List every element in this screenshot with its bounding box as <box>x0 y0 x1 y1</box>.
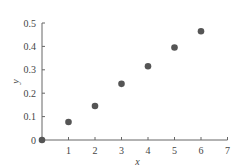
x-tick-label: 4 <box>146 145 151 156</box>
x-tick-label: 2 <box>93 145 98 156</box>
y-tick-label: 0.3 <box>24 64 37 75</box>
x-tick-label: 1 <box>66 145 71 156</box>
data-point <box>65 119 72 126</box>
y-tick-label: 0.4 <box>24 41 37 52</box>
y-tick-label: 0.2 <box>24 88 37 99</box>
y-tick-label: 0.1 <box>24 111 37 122</box>
y-axis-label: y <box>10 79 21 85</box>
data-point <box>39 137 46 144</box>
data-point <box>92 103 99 110</box>
data-point <box>171 44 178 51</box>
x-tick-label: 6 <box>199 145 204 156</box>
x-tick-label: 5 <box>172 145 177 156</box>
y-tick-label: 0.5 <box>24 18 37 29</box>
x-axis-label: x <box>134 156 140 167</box>
data-point <box>118 81 125 88</box>
scatter-chart: 123456700.10.20.30.40.5xy <box>0 0 244 168</box>
data-point <box>145 63 152 70</box>
y-tick-label: 0 <box>31 135 36 146</box>
data-point <box>198 28 205 35</box>
x-tick-label: 3 <box>119 145 124 156</box>
x-tick-label: 7 <box>225 145 230 156</box>
